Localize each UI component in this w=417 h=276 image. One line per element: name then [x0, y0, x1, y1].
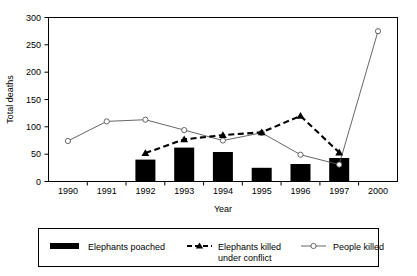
legend-label-people-killed: People killed — [333, 242, 384, 252]
people-killed-point-2000 — [375, 29, 380, 34]
x-tick-label-1995: 1995 — [252, 186, 272, 196]
legend: Elephants poached Elephants killed under… — [39, 229, 385, 267]
x-tick-label-1994: 1994 — [213, 186, 233, 196]
x-tick-label-1990: 1990 — [58, 186, 78, 196]
x-tick-label-1997: 1997 — [329, 186, 349, 196]
x-tick-label-1996: 1996 — [290, 186, 310, 196]
x-tick-label-1991: 1991 — [97, 186, 117, 196]
people-killed-point-1994 — [220, 138, 225, 143]
people-killed-point-1992 — [143, 117, 148, 122]
y-tick-label-200: 200 — [26, 67, 41, 77]
x-tick-label-1992: 1992 — [135, 186, 155, 196]
legend-label-elephants-poached: Elephants poached — [88, 242, 165, 252]
x-tick-label-1993: 1993 — [174, 186, 194, 196]
people-killed-point-1991 — [104, 119, 109, 124]
chart-figure: 0 50 100 150 200 250 300 Total deaths 19… — [0, 0, 417, 276]
y-tick-label-0: 0 — [36, 177, 41, 187]
bar-1993 — [174, 148, 194, 182]
y-tick-label-100: 100 — [26, 122, 41, 132]
bar-1992 — [135, 160, 155, 182]
y-tick-label-300: 300 — [26, 13, 41, 23]
chart-svg: 0 50 100 150 200 250 300 Total deaths 19… — [0, 0, 417, 276]
legend-swatch-circle-icon — [311, 243, 316, 248]
y-tick-label-250: 250 — [26, 40, 41, 50]
people-killed-point-1990 — [65, 138, 70, 143]
legend-label-elephants-conflict-line1: Elephants killed — [218, 242, 281, 252]
y-axis-title: Total deaths — [5, 75, 15, 124]
bar-1996 — [291, 164, 311, 182]
people-killed-point-1993 — [182, 128, 187, 133]
legend-swatch-bar-icon — [50, 243, 79, 249]
y-axis: 0 50 100 150 200 250 300 Total deaths — [5, 13, 49, 187]
people-killed-point-1996 — [298, 152, 303, 157]
bar-1995 — [252, 168, 272, 182]
people-killed-point-1997 — [337, 162, 342, 167]
bar-1997 — [329, 158, 349, 182]
y-tick-label-50: 50 — [31, 149, 41, 159]
x-axis: 1990 1991 1992 1993 1994 1995 1996 1997 … — [49, 182, 398, 215]
bar-1994 — [213, 152, 233, 182]
x-axis-title: Year — [214, 204, 232, 214]
y-tick-label-150: 150 — [26, 95, 41, 105]
legend-label-elephants-conflict-line2: under conflict — [218, 253, 272, 263]
x-tick-label-2000: 2000 — [368, 186, 388, 196]
